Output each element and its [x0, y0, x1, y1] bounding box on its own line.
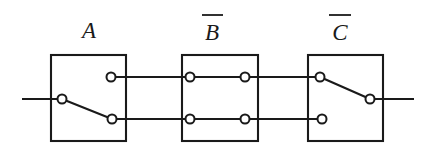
contact-node-b-lower-right [241, 115, 250, 124]
contact-node-a-pivot [58, 95, 67, 104]
switch-labels: A B C [80, 15, 351, 45]
contact-node-b-upper-right [241, 73, 250, 82]
relay-boxes [51, 55, 383, 141]
switch-blade-c [320, 77, 370, 99]
contact-node-c-pivot [316, 73, 325, 82]
relay-box-b [182, 55, 258, 141]
contact-node-c-lower [318, 115, 327, 124]
contact-node-b-lower-left [186, 115, 195, 124]
contact-node-b-upper-left [186, 73, 195, 82]
conductor-wires [22, 77, 414, 119]
label-b: B [205, 20, 219, 45]
contact-node-c-output [366, 95, 375, 104]
switch-circuit-diagram: A B C [0, 0, 433, 148]
circuit-canvas: A B C [0, 0, 433, 148]
label-c: C [332, 20, 348, 45]
contact-node-a-lower [108, 115, 117, 124]
switch-blade-a [62, 99, 112, 119]
contact-node-a-upper [107, 73, 116, 82]
switch-blades [62, 77, 370, 119]
label-a: A [80, 18, 97, 43]
